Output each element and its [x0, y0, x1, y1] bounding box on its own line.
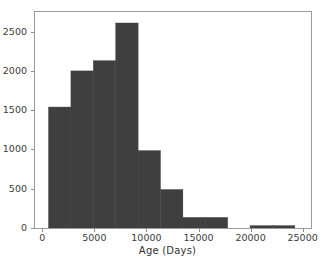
histogram-bar	[138, 151, 160, 228]
histogram-bar	[116, 23, 138, 228]
x-axis-tick-label: 0	[22, 232, 62, 243]
x-axis-tick-label: 5000	[74, 232, 114, 243]
x-axis-tick-label: 25000	[283, 232, 323, 243]
x-axis-tick-label: 20000	[231, 232, 271, 243]
histogram-bar	[272, 226, 294, 228]
histogram-bar	[49, 107, 71, 228]
histogram-bars	[35, 12, 311, 228]
x-axis-label: Age (Days)	[0, 245, 335, 256]
histogram-bar	[183, 217, 205, 228]
x-axis-tick-label: 15000	[179, 232, 219, 243]
figure-canvas: . 05001000150020002500 05000100001500020…	[0, 0, 335, 261]
histogram-bar	[205, 217, 227, 228]
histogram-bar	[93, 61, 115, 228]
plot-area	[34, 11, 312, 229]
histogram-bar	[250, 226, 272, 228]
histogram-bar	[71, 71, 93, 228]
x-axis-tick-label: 10000	[126, 232, 166, 243]
histogram-bar	[161, 190, 183, 228]
